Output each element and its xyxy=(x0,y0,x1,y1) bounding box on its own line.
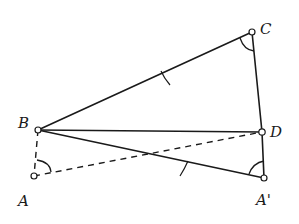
angle-arc-a1 xyxy=(249,161,264,174)
label-c: C xyxy=(260,20,272,38)
segment-bc xyxy=(38,32,252,130)
segment-ba-dashed xyxy=(34,130,38,176)
segment-cd xyxy=(252,32,262,132)
angle-arc-c xyxy=(240,38,254,51)
tick-mark-ba1 xyxy=(180,161,188,176)
point-a1 xyxy=(261,175,267,181)
geometry-diagram: C B D A' A xyxy=(0,0,299,224)
label-b: B xyxy=(17,114,29,132)
segment-bd xyxy=(38,130,262,132)
point-c xyxy=(249,29,255,35)
label-a: A xyxy=(16,192,29,210)
segment-da1 xyxy=(262,132,264,178)
segment-ba1 xyxy=(38,130,264,178)
tick-mark-bc xyxy=(161,71,170,85)
label-a1: A' xyxy=(254,191,271,209)
angle-arc-a xyxy=(37,160,51,172)
label-d: D xyxy=(269,123,282,141)
point-d xyxy=(259,129,265,135)
point-b xyxy=(35,127,41,133)
point-a xyxy=(31,173,37,179)
